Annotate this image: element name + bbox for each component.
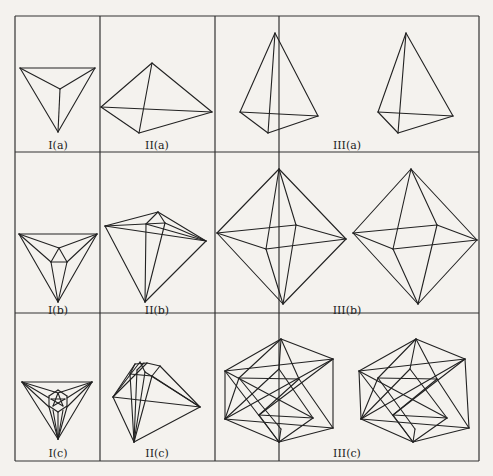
label-IIIa: III(a)	[333, 139, 361, 152]
label-IIc: II(c)	[145, 447, 168, 460]
polyhedron-Ia	[20, 68, 95, 132]
label-Ic: I(c)	[48, 447, 67, 460]
label-IIa: II(a)	[145, 139, 169, 152]
polyhedron-IIIb-right	[353, 169, 477, 304]
polyhedron-IIIa-right	[378, 33, 453, 133]
label-Ia: I(a)	[48, 139, 68, 152]
polyhedron-IIIc-left	[225, 339, 333, 442]
polyhedron-IIc	[113, 362, 200, 442]
polyhedron-IIb	[105, 212, 206, 302]
polyhedron-IIIb-left	[217, 169, 346, 304]
polyhedron-IIa	[101, 63, 212, 133]
polyhedra-drawing: I(a) II(a) III(a) I(b) II(b) III(b) I(c)…	[0, 0, 493, 476]
polyhedron-IIIc-right	[359, 339, 469, 442]
label-IIIb: III(b)	[333, 304, 362, 317]
polyhedron-Ic	[22, 382, 92, 439]
label-IIIc: III(c)	[333, 447, 361, 460]
polyhedron-Ib	[19, 234, 97, 302]
polyhedron-IIIa-left	[240, 33, 318, 133]
label-Ib: I(b)	[48, 304, 68, 317]
label-IIb: II(b)	[145, 304, 169, 317]
